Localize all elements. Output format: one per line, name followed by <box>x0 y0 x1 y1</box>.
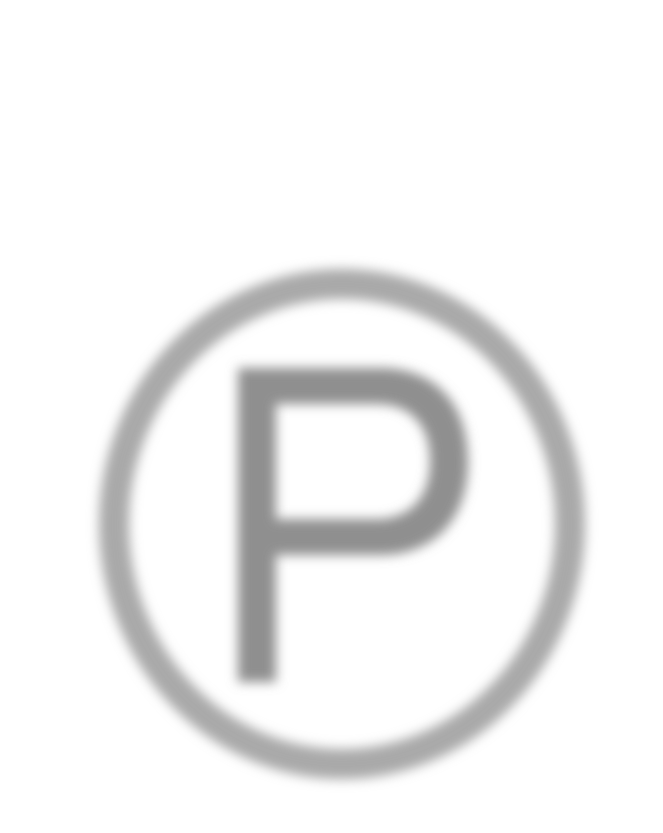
parking-sign-icon <box>0 0 663 833</box>
background <box>0 0 663 833</box>
parking-sign-canvas: P <box>0 0 663 833</box>
